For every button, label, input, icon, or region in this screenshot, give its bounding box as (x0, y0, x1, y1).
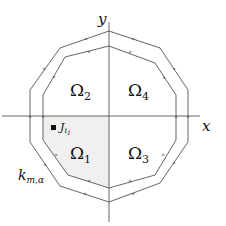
curve-label: km,α (18, 167, 44, 185)
svg-text:*: * (187, 114, 190, 121)
region-omega-4: Ω4 (128, 80, 149, 103)
svg-text:*: * (44, 162, 47, 169)
svg-text:*: * (43, 66, 46, 73)
svg-text:*: * (173, 160, 176, 167)
region-omega-2: Ω2 (70, 80, 91, 103)
x-axis-label: x (202, 117, 211, 135)
svg-text:*: * (85, 36, 88, 43)
svg-text:*: * (88, 49, 91, 56)
svg-text:*: * (29, 114, 32, 121)
svg-text:*: * (129, 49, 132, 56)
svg-text:*: * (132, 36, 135, 43)
svg-text:*: * (53, 74, 56, 81)
svg-text:*: * (162, 152, 165, 159)
svg-text:*: * (175, 114, 178, 121)
domain-decomposition-diagram: * * * * * * * * * * * * * * * * * * * * … (0, 0, 226, 226)
point-marker (51, 125, 56, 130)
region-omega-3: Ω3 (128, 143, 149, 166)
svg-text:*: * (88, 178, 91, 185)
svg-text:*: * (132, 191, 135, 198)
svg-text:*: * (84, 191, 87, 198)
y-axis-label: y (97, 10, 107, 28)
svg-text:*: * (55, 152, 58, 159)
svg-text:*: * (173, 66, 176, 73)
svg-text:*: * (42, 114, 45, 121)
svg-text:*: * (129, 178, 132, 185)
svg-text:*: * (163, 75, 166, 82)
